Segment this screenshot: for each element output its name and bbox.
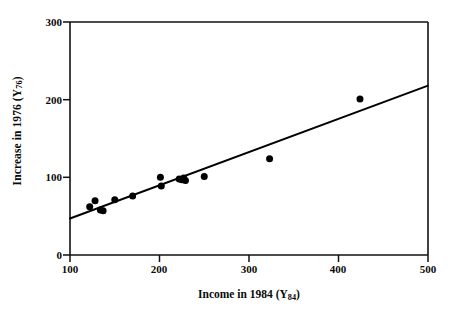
x-axis-ticks <box>70 255 428 262</box>
x-axis-title-subscript: 84 <box>288 293 296 302</box>
scatter-point <box>92 197 99 204</box>
scatter-point <box>86 203 93 210</box>
regression-line <box>70 86 428 219</box>
x-axis-title-suffix: ) <box>296 288 300 300</box>
scatter-point <box>201 173 208 180</box>
axes-frame <box>70 22 428 255</box>
scatter-plot-figure: Increase in 1976 (Y76) 300 200 100 0 100… <box>0 0 473 313</box>
y-axis-ticks <box>63 22 70 255</box>
scatter-point <box>157 174 164 181</box>
scatter-point <box>182 177 189 184</box>
x-axis-title: Income in 1984 (Y84) <box>70 288 428 302</box>
plot-area <box>0 0 473 313</box>
scatter-point <box>129 192 136 199</box>
scatter-point <box>266 155 273 162</box>
scatter-point <box>356 95 363 102</box>
scatter-point <box>100 207 107 214</box>
scatter-point <box>158 182 165 189</box>
x-axis-title-prefix: Income in 1984 (Y <box>198 288 288 300</box>
scatter-point <box>111 196 118 203</box>
